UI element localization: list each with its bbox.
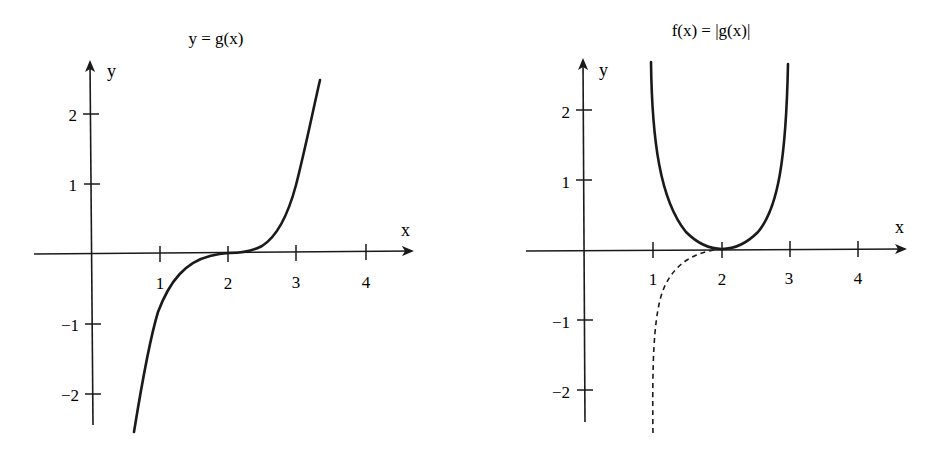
left-x-tick-1: 1 [156,274,165,293]
left-y-axis-label: y [107,61,116,81]
left-x-tick-2: 2 [224,274,233,293]
left-y-tick-1: 1 [69,176,78,195]
right-x-tick-2: 2 [718,270,727,289]
right-y-tick-2: 2 [562,103,571,122]
right-x-tick-3: 3 [785,269,794,288]
left-y-tick-neg1: −1 [61,316,79,335]
curve-g-of-x [134,80,320,432]
right-plot-title: f(x) = |g(x)| [672,21,751,40]
right-plot: f(x) = |g(x)| x y 1 2 3 4 2 1 −1 −2 [526,21,905,436]
left-x-tick-3: 3 [292,273,301,292]
left-x-axis-label: x [401,220,410,240]
left-y-axis [90,62,93,425]
right-y-tick-neg2: −2 [552,383,570,402]
left-plot: y = g(x) x y 1 2 3 4 2 1 −1 −2 [34,29,412,432]
left-x-tick-4: 4 [362,273,371,292]
curve-f-of-x [651,62,788,249]
left-plot-title: y = g(x) [189,29,244,48]
right-y-tick-1: 1 [562,173,571,192]
right-x-tick-4: 4 [854,269,863,288]
left-y-tick-neg2: −2 [61,386,79,405]
right-x-axis-label: x [895,217,904,237]
right-y-tick-neg1: −1 [552,313,570,332]
figure: y = g(x) x y 1 2 3 4 2 1 −1 −2 [0,0,937,458]
left-y-tick-2: 2 [69,106,78,125]
right-x-tick-1: 1 [649,270,658,289]
right-y-axis-label: y [599,60,608,80]
curve-g-dashed-reflected-part [653,250,714,436]
right-y-axis [583,60,585,422]
